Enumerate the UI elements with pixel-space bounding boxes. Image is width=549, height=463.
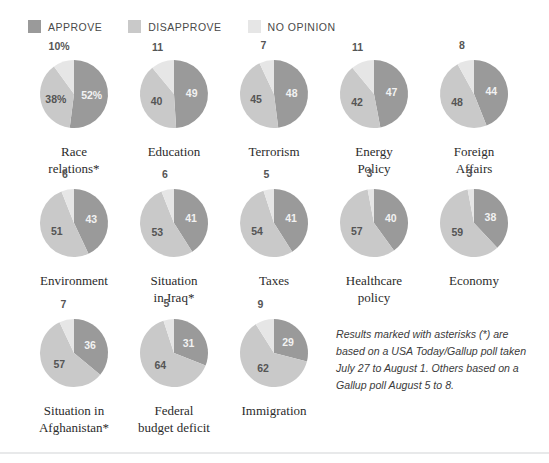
pie-chart: 29629 (228, 307, 320, 399)
pie-chart-cell: 41545Taxes (224, 177, 324, 289)
pie-label-no-opinion: 8 (459, 39, 465, 51)
pie-chart: 40573 (328, 177, 420, 269)
pie-graphic: 38593 (440, 189, 508, 257)
pie-graphic: 44488 (440, 60, 508, 128)
bottom-divider (0, 452, 549, 454)
pie-graphic: 36577 (40, 319, 108, 387)
pie-chart-title: Economy (422, 272, 526, 289)
pie-graphic: 474211 (340, 60, 408, 128)
pie-graphic: 29629 (240, 319, 308, 387)
pie-chart-cell: 52%38%10%Racerelations* (24, 48, 124, 177)
pie-chart-title: Education (122, 143, 226, 160)
pie-chart-cell: 44488ForeignAffairs (424, 48, 524, 177)
pie-label-no-opinion: 11 (152, 41, 163, 53)
legend-item-no-opinion: NO OPINION (248, 20, 336, 33)
pie-chart-cell: 494011Education (124, 48, 224, 160)
legend-swatch-disapprove (128, 20, 141, 33)
pie-chart-title: Taxes (222, 272, 326, 289)
pie-label-no-opinion: 10% (49, 40, 70, 52)
pie-chart-title: ForeignAffairs (422, 143, 526, 177)
pie-chart-cell: 36577Situation inAfghanistan* (24, 307, 124, 436)
pie-label-no-opinion: 7 (261, 39, 267, 51)
pie-graphic: 48457 (240, 60, 308, 128)
pie-chart-title: Federalbudget deficit (122, 402, 226, 436)
pie-chart-title: Immigration (222, 402, 326, 419)
pie-chart-cell: 31645Federalbudget deficit (124, 307, 224, 436)
pie-chart-row: 52%38%10%Racerelations*494011Education48… (0, 48, 549, 177)
pie-chart-title: EnergyPolicy (322, 143, 426, 177)
pie-chart-title: Terrorism (222, 143, 326, 160)
legend-item-disapprove: DISAPPROVE (128, 20, 221, 33)
pie-slice-approve (174, 60, 208, 128)
legend-label-disapprove: DISAPPROVE (148, 21, 221, 33)
pie-graphic: 31645 (140, 319, 208, 387)
pie-chart-title: Racerelations* (22, 143, 126, 177)
pie-chart: 41545 (228, 177, 320, 269)
pie-chart-title: Environment (22, 272, 126, 289)
pie-slice-approve (374, 60, 408, 127)
pie-slice-approve (274, 60, 308, 128)
legend-swatch-approve (28, 20, 41, 33)
pie-chart: 41536 (128, 177, 220, 269)
pie-chart: 38593 (428, 177, 520, 269)
pie-graphic: 41536 (140, 189, 208, 257)
pie-chart: 44488 (428, 48, 520, 140)
pie-chart-title: Situation inAfghanistan* (22, 402, 126, 436)
pie-label-no-opinion: 11 (352, 41, 363, 53)
pie-graphic: 43516 (40, 189, 108, 257)
pie-chart: 494011 (128, 48, 220, 140)
pie-chart-cell: 48457Terrorism (224, 48, 324, 160)
pie-chart-cell: 41536Situationin Iraq* (124, 177, 224, 306)
pie-chart: 474211 (328, 48, 420, 140)
legend-label-no-opinion: NO OPINION (268, 21, 336, 33)
pie-chart: 52%38%10% (28, 48, 120, 140)
pie-chart-title: Healthcarepolicy (322, 272, 426, 306)
pie-graphic: 41545 (240, 189, 308, 257)
pie-chart-cell: 38593Economy (424, 177, 524, 289)
pie-chart-cell: 474211EnergyPolicy (324, 48, 424, 177)
pie-graphic: 52%38%10% (40, 60, 108, 128)
pie-graphic: 494011 (140, 60, 208, 128)
pie-chart-title: Situationin Iraq* (122, 272, 226, 306)
pie-slice-approve (70, 60, 108, 128)
pie-chart-cell: 43516Environment (24, 177, 124, 289)
legend-swatch-no-opinion (248, 20, 261, 33)
legend-item-approve: APPROVE (28, 20, 102, 33)
footnote-text: Results marked with asterisks (*) are ba… (336, 326, 536, 395)
pie-chart-cell: 29629Immigration (224, 307, 324, 419)
pie-chart: 31645 (128, 307, 220, 399)
pie-chart: 43516 (28, 177, 120, 269)
pie-chart: 36577 (28, 307, 120, 399)
chart-legend: APPROVE DISAPPROVE NO OPINION (28, 20, 336, 33)
pie-chart: 48457 (228, 48, 320, 140)
legend-label-approve: APPROVE (48, 21, 102, 33)
pie-graphic: 40573 (340, 189, 408, 257)
pie-chart-row: 43516Environment41536Situationin Iraq*41… (0, 177, 549, 306)
pie-chart-cell: 40573Healthcarepolicy (324, 177, 424, 306)
